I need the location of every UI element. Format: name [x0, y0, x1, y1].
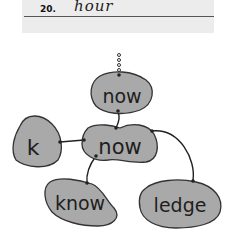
- connector-center-know: [87, 156, 96, 183]
- connector-center-ledge: [152, 131, 193, 180]
- node-know: know: [45, 179, 117, 226]
- node-ledge: ledge: [139, 179, 221, 228]
- connector-top-center: [116, 112, 119, 128]
- node-top: now: [91, 72, 152, 114]
- node-top-label: now: [102, 85, 141, 107]
- node-left: k: [13, 116, 62, 167]
- node-left-label: k: [27, 135, 40, 160]
- word-chain-diagram: now k now know ledge: [0, 0, 238, 238]
- node-ledge-label: ledge: [154, 194, 207, 216]
- node-know-label: know: [55, 192, 105, 214]
- node-center-label: now: [98, 135, 141, 159]
- node-center: now: [82, 125, 157, 163]
- connector-left-center: [60, 140, 84, 142]
